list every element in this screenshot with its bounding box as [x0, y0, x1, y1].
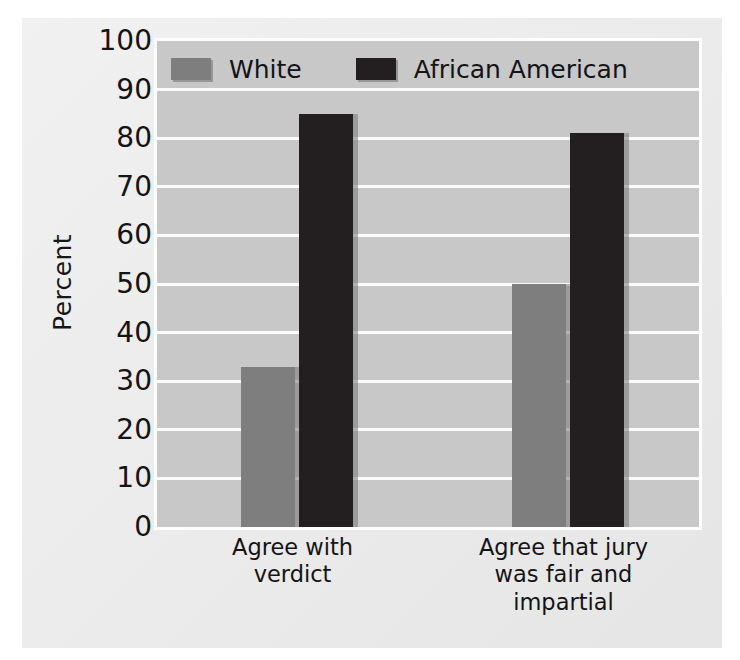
x-category-label-2-line-3: impartial	[428, 589, 699, 616]
chart-legend: White African American	[171, 47, 628, 91]
y-tick-50: 50	[66, 270, 152, 298]
bar-african-american-group-2	[570, 133, 624, 527]
x-axis-category-labels: Agree withverdictAgree that jurywas fair…	[154, 534, 702, 644]
legend-swatch-white	[171, 58, 211, 80]
legend-item-african-american: African American	[356, 55, 628, 84]
x-category-label-2-line-2: was fair and	[428, 561, 699, 588]
legend-item-white: White	[171, 55, 302, 84]
y-tick-90: 90	[66, 76, 152, 104]
legend-label-white: White	[229, 55, 302, 84]
y-tick-80: 80	[66, 124, 152, 152]
y-tick-20: 20	[66, 416, 152, 444]
chart-sheet: Percent 1009080706050403020100 White Afr…	[22, 18, 722, 648]
y-tick-10: 10	[66, 464, 152, 492]
figure-container: Percent 1009080706050403020100 White Afr…	[0, 0, 740, 660]
x-category-label-1-line-2: verdict	[157, 561, 428, 588]
legend-swatch-african-american	[356, 58, 396, 80]
x-category-label-2-line-1: Agree that jury	[428, 534, 699, 561]
y-tick-40: 40	[66, 319, 152, 347]
y-tick-60: 60	[66, 221, 152, 249]
bar-white-group-2	[512, 284, 566, 527]
x-category-label-1-line-1: Agree with	[157, 534, 428, 561]
bar-african-american-group-1	[299, 114, 353, 527]
plot-area: White African American	[154, 38, 702, 530]
y-tick-100: 100	[66, 27, 152, 55]
x-category-label-2: Agree that jurywas fair andimpartial	[428, 534, 699, 616]
y-tick-0: 0	[66, 513, 152, 541]
bar-white-group-1	[241, 367, 295, 527]
legend-label-african-american: African American	[414, 55, 628, 84]
plot-inner	[157, 41, 699, 527]
y-tick-30: 30	[66, 367, 152, 395]
y-tick-70: 70	[66, 173, 152, 201]
x-category-label-1: Agree withverdict	[157, 534, 428, 589]
y-axis-tick-labels: 1009080706050403020100	[66, 18, 152, 648]
